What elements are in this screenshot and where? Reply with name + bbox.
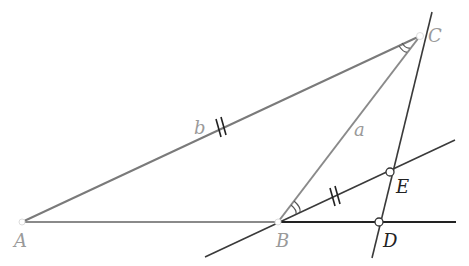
tick-marks-ac bbox=[216, 117, 226, 137]
label-e: E bbox=[395, 176, 409, 197]
point-e bbox=[386, 168, 394, 176]
label-side-b: b bbox=[194, 117, 206, 138]
label-a: A bbox=[12, 230, 27, 251]
line-be bbox=[205, 140, 455, 257]
label-side-a: a bbox=[354, 119, 365, 140]
point-b bbox=[275, 219, 281, 225]
point-a bbox=[19, 219, 25, 225]
point-d bbox=[375, 218, 383, 226]
point-c bbox=[417, 33, 424, 40]
label-d: D bbox=[382, 230, 398, 251]
triangle-diagram: A B C D E a b bbox=[0, 0, 469, 266]
label-b: B bbox=[275, 230, 289, 251]
label-c: C bbox=[428, 25, 442, 46]
